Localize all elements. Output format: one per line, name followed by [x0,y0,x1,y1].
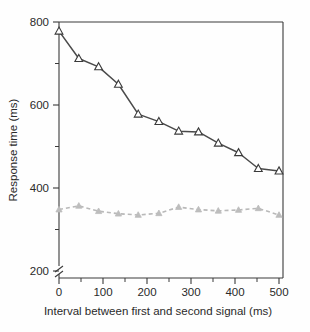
y-tick-label-800: 800 [30,16,49,28]
single-task-marker [276,212,282,218]
x-tick-label-400: 400 [225,286,244,298]
x-axis-ticks-minor [81,278,257,282]
dual-task-marker [214,139,222,146]
x-tick-label-200: 200 [137,286,156,298]
y-tick-label-600: 600 [30,99,49,111]
single-task-marker [195,206,201,212]
y-tick-label-200: 200 [30,265,49,277]
series-single-task [56,203,282,218]
x-axis-title: Interval between first and second signal… [44,305,272,317]
plot-frame [59,22,283,278]
y-axis-ticks-minor [55,64,59,230]
single-task-marker [76,203,82,209]
y-axis-title: Response time (ms) [7,98,19,201]
x-tick-label-0: 0 [56,286,62,298]
line-chart-plot: 800 600 400 200 0 100 200 300 400 500 In [0,0,310,332]
dual-task-marker [55,27,63,34]
single-task-line [59,206,279,215]
y-tick-label-400: 400 [30,182,49,194]
single-task-marker [176,204,182,210]
dual-task-line [59,31,279,171]
chart-figure: 800 600 400 200 0 100 200 300 400 500 In [0,0,310,332]
series-dual-task [55,27,283,174]
x-tick-label-100: 100 [93,286,112,298]
x-tick-label-500: 500 [269,286,288,298]
x-tick-label-300: 300 [181,286,200,298]
